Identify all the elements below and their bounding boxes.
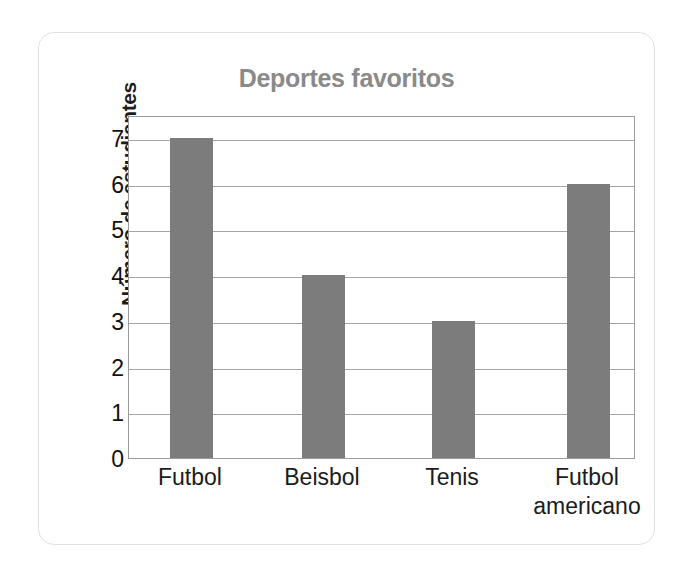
x-tick-label: Futbolamericano (497, 463, 677, 521)
plot-area (128, 116, 635, 459)
y-tick-label: 4 (90, 265, 124, 288)
y-tick-label: 1 (90, 402, 124, 425)
y-axis-tick-labels: 01234567 (82, 116, 124, 459)
bar (170, 138, 213, 458)
bar (302, 275, 345, 458)
y-tick-label: 3 (90, 311, 124, 334)
y-tick-label: 7 (90, 128, 124, 151)
bar (432, 321, 475, 458)
figure-card: Deportes favoritos Número de estudiantes… (38, 32, 655, 545)
bar (567, 184, 610, 458)
x-tick-label-line: Futbol (497, 463, 677, 492)
x-axis-tick-labels: FutbolBeisbolTenisFutbolamericano (128, 463, 635, 543)
x-tick-label-line: americano (497, 492, 677, 521)
y-tick-label: 2 (90, 357, 124, 380)
y-tick-label: 5 (90, 219, 124, 242)
y-tick-label: 6 (90, 174, 124, 197)
